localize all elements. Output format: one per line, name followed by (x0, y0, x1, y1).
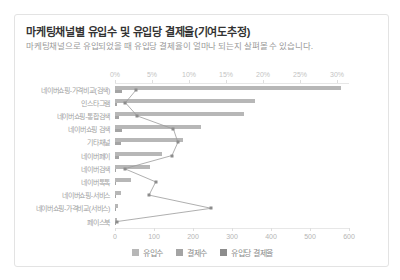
category-label: 네이버쇼핑-가격비교(검색) (41, 85, 110, 95)
legend-item[interactable]: 결제수 (176, 247, 207, 258)
top-axis-tick (226, 80, 227, 83)
category-label: 네이버쇼핑-가격비교(서비스) (36, 203, 111, 213)
legend-item[interactable]: 유입수 (132, 247, 163, 258)
legend-label: 결제수 (187, 247, 207, 258)
category-label: 기타채널 (87, 137, 110, 147)
top-axis-tick (189, 80, 190, 83)
inflow-bar (115, 86, 341, 90)
report-card: 마케팅채널별 유입수 및 유입당 결제율(기여도추정) 마케팅채널으로 유입되었… (14, 14, 389, 267)
bottom-axis-tick (154, 228, 155, 231)
category-label: 네이버쇼핑-통합검색 (57, 111, 110, 121)
payment-bar (115, 208, 116, 211)
legend-label: 유입수 (143, 247, 163, 258)
payment-bar (115, 116, 119, 119)
category-label: 페이스북 (87, 217, 110, 227)
category-label: 네이버검색 (81, 164, 110, 174)
category-label: 네이버쇼핑-서비스 (62, 190, 110, 200)
rate-marker (136, 114, 139, 117)
payment-bar (115, 182, 116, 185)
inflow-bar (115, 152, 162, 156)
payment-bar (115, 142, 121, 145)
payment-bar (115, 195, 116, 198)
rate-marker (124, 101, 127, 104)
rate-marker (210, 207, 213, 210)
inflow-bar (115, 99, 255, 103)
legend-label: 유입당 결제율 (231, 247, 273, 258)
top-axis-tick (337, 80, 338, 83)
inflow-bar (115, 125, 201, 129)
bottom-axis-tick-label: 200 (187, 233, 199, 240)
top-axis-tick (115, 80, 116, 83)
bottom-axis-tick (115, 228, 116, 231)
top-axis-tick-label: 5% (147, 71, 157, 78)
bottom-axis-tick (271, 228, 272, 231)
inflow-bar (115, 112, 244, 116)
page-subtitle: 마케팅채널으로 유입되었을 때 유입당 결제율이 얼마나 되는지 살펴볼 수 있… (26, 39, 313, 51)
top-axis-tick (263, 80, 264, 83)
bottom-axis-tick-label: 500 (304, 233, 316, 240)
legend-swatch-icon (220, 249, 227, 256)
inflow-bar (115, 165, 150, 169)
rate-marker (123, 167, 126, 170)
bottom-axis-tick (193, 228, 194, 231)
top-axis-tick-label: 20% (256, 71, 270, 78)
legend-swatch-icon (176, 249, 183, 256)
payment-bar (115, 156, 119, 159)
bottom-axis-tick-label: 400 (265, 233, 277, 240)
payment-bar (115, 169, 116, 172)
top-axis-tick-label: 10% (182, 71, 196, 78)
bottom-axis-tick (349, 228, 350, 231)
rate-marker (176, 141, 179, 144)
rate-marker (172, 128, 175, 131)
payment-bar (115, 129, 122, 132)
inflow-bar (115, 178, 131, 182)
category-label: 네이버쇼핑 검색 (68, 124, 110, 134)
bottom-axis-tick (232, 228, 233, 231)
category-label: 인스타그램 (81, 98, 110, 108)
top-axis-tick (300, 80, 301, 83)
bottom-axis-tick-label: 600 (343, 233, 355, 240)
channel-bar-line-chart: 0%5%10%15%20%25%30%0100200300400500600네이… (15, 65, 388, 243)
top-axis-line (115, 83, 349, 84)
chart-legend: 유입수결제수유입당 결제율 (15, 247, 390, 258)
bottom-axis-tick-label: 0 (113, 233, 117, 240)
payment-bar (115, 90, 122, 93)
top-axis-tick-label: 30% (330, 71, 344, 78)
rate-marker (135, 88, 138, 91)
rate-marker (154, 180, 157, 183)
page-title: 마케팅채널별 유입수 및 유입당 결제율(기여도추정) (26, 23, 250, 39)
bottom-axis-tick (310, 228, 311, 231)
rate-marker (170, 154, 173, 157)
category-label: 네이버톡톡 (81, 177, 110, 187)
top-axis-tick-label: 0% (110, 71, 120, 78)
inflow-bar (115, 138, 183, 142)
top-axis-tick (152, 80, 153, 83)
top-axis-tick-label: 15% (219, 71, 233, 78)
bottom-axis-tick-label: 300 (226, 233, 238, 240)
legend-item[interactable]: 유입당 결제율 (220, 247, 273, 258)
legend-swatch-icon (132, 249, 139, 256)
payment-bar (115, 103, 117, 106)
top-axis-tick-label: 25% (293, 71, 307, 78)
bottom-axis-tick-label: 100 (148, 233, 160, 240)
category-label: 네이버페이 (81, 151, 110, 161)
rate-marker (148, 194, 151, 197)
rate-marker (116, 220, 119, 223)
